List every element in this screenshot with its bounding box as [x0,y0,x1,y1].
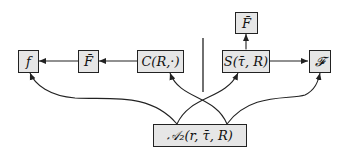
node-a2-label: 𝒜₂(r, τ̄, R) [167,128,233,144]
node-fbar-left: F̄ [78,50,99,73]
node-fbar-top-label: F̄ [242,16,251,31]
edge-a2-to-c [170,73,227,124]
edge-a2-to-f [30,73,177,124]
node-a2: 𝒜₂(r, τ̄, R) [153,124,247,147]
node-c: C(R,·) [137,50,184,73]
node-s: S(τ̄, R) [222,50,270,73]
node-c-label: C(R,·) [141,54,179,69]
node-fcal: 𝓕 [309,50,331,73]
node-f-label: f [26,54,31,69]
node-s-label: S(τ̄, R) [224,54,268,69]
node-fbar-top: F̄ [235,12,258,34]
edge-a2-to-s [177,73,238,124]
node-fcal-label: 𝓕 [315,54,325,70]
node-f: f [18,50,39,73]
edge-a2-to-fcal [227,73,320,124]
node-fbar-left-label: F̄ [84,54,93,69]
